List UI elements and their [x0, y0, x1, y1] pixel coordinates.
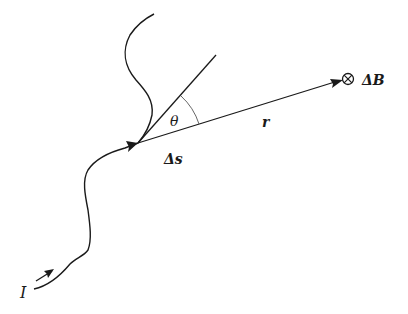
current-i-label: I — [19, 283, 27, 302]
biot-savart-diagram: θ r Δs ΔB I — [0, 0, 408, 314]
wire-upper — [125, 14, 154, 143]
angle-theta-label: θ — [170, 113, 179, 129]
position-vector-r — [138, 81, 338, 143]
field-into-page-icon — [343, 74, 354, 85]
segment-ds-label: Δs — [163, 151, 183, 167]
vector-r-label: r — [262, 114, 271, 130]
angle-arc — [181, 96, 199, 124]
field-delta-b-label: ΔB — [361, 72, 385, 88]
current-direction-arrow-icon — [44, 269, 54, 278]
wire-lower — [34, 143, 138, 289]
